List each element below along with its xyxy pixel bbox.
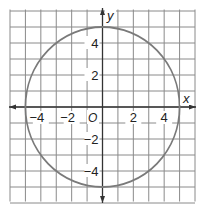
tick-labels: −4−22442−2−4 [29, 9, 192, 179]
y-tick-label: 4 [91, 36, 98, 51]
y-tick-label: 2 [91, 68, 98, 83]
y-axis-down-arrow-icon [100, 196, 105, 203]
axes [9, 8, 196, 203]
x-tick-label: −2 [60, 110, 75, 125]
x-tick-label: 2 [130, 110, 137, 125]
x-tick-label: 4 [161, 110, 168, 125]
x-axis-label: x [182, 91, 190, 106]
origin-label: O [88, 111, 97, 125]
x-tick-label: −4 [29, 110, 44, 125]
y-tick-label: −2 [84, 132, 99, 147]
y-tick-label: −4 [84, 164, 99, 179]
coordinate-plane: −4−22442−2−4 xyO [0, 0, 203, 223]
